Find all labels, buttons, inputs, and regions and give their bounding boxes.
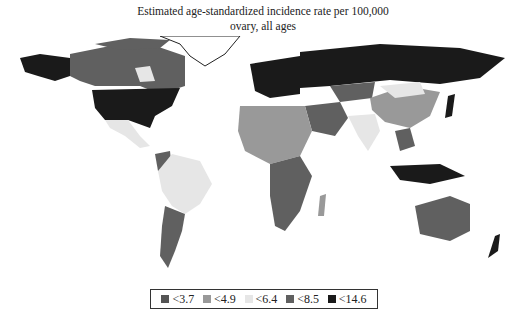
legend-swatch [245,295,253,303]
region-japan [445,94,455,118]
chart-title: Estimated age-standardized incidence rat… [0,4,526,34]
legend-label: <14.6 [339,292,367,307]
region-usa [92,88,180,128]
legend-item: <8.5 [286,292,319,307]
region-north-africa [238,106,312,164]
region-canada [70,44,185,94]
legend-item: <3.7 [161,292,194,307]
legend-swatch [161,295,169,303]
region-brazil [158,154,212,214]
region-new-zealand [488,234,500,258]
world-map [0,36,526,276]
region-alaska [20,54,70,81]
legend-item: <4.9 [203,292,236,307]
region-australia [415,196,470,241]
legend-item: <6.4 [245,292,278,307]
region-india [348,114,380,151]
region-europe [250,56,300,98]
legend-swatch [286,295,294,303]
title-line-1: Estimated age-standardized incidence rat… [0,4,526,19]
region-argentina [160,206,185,268]
region-madagascar [318,194,326,216]
legend-swatch [328,295,336,303]
region-indonesia [390,164,465,184]
legend: <3.7 <4.9 <6.4 <8.5 <14.6 [150,289,378,309]
legend-item: <14.6 [328,292,367,307]
legend-label: <4.9 [214,292,236,307]
legend-label: <6.4 [256,292,278,307]
legend-swatch [203,295,211,303]
region-russia [300,44,505,88]
region-africa-south [270,156,312,231]
legend-label: <8.5 [297,292,319,307]
legend-label: <3.7 [172,292,194,307]
title-line-2: ovary, all ages [0,19,526,34]
region-se-asia [395,128,415,151]
